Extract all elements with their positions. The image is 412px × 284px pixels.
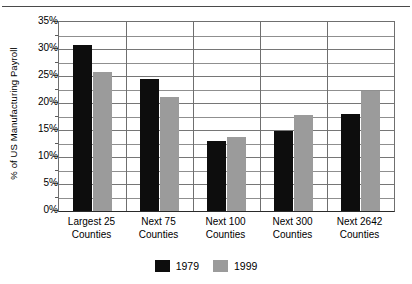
chart-legend: 19791999 — [0, 260, 412, 272]
x-label-line: Next 2642 — [326, 216, 393, 229]
bar-1999-3 — [227, 137, 246, 211]
legend-swatch-icon — [213, 260, 228, 272]
bar-group — [193, 22, 260, 211]
y-tick-label: 15% — [6, 124, 58, 134]
y-tick-label: 5% — [6, 178, 58, 188]
bar-group — [327, 22, 394, 211]
bar-group — [59, 22, 126, 211]
bar-1999-2 — [160, 97, 179, 211]
x-label-line: Next 100 — [192, 216, 259, 229]
x-label-line: Counties — [192, 229, 259, 242]
legend-swatch-icon — [155, 260, 170, 272]
chart-figure: % of US Manufacturing Payroll 0%5%10%15%… — [0, 0, 412, 284]
y-tick-label: 0% — [6, 205, 58, 215]
legend-label: 1999 — [234, 261, 257, 272]
x-label-line: Next 300 — [259, 216, 326, 229]
bar-1999-1 — [93, 72, 112, 211]
legend-entry-1999[interactable]: 1999 — [213, 260, 257, 272]
bar-group — [126, 22, 193, 211]
x-axis-label-5: Next 2642Counties — [326, 216, 393, 241]
x-label-line: Counties — [125, 229, 192, 242]
x-axis-category-labels: Largest 25CountiesNext 75CountiesNext 10… — [58, 216, 395, 252]
bar-1979-4 — [274, 131, 293, 211]
y-tick-label: 35% — [6, 16, 58, 26]
x-axis-label-3: Next 100Counties — [192, 216, 259, 241]
x-label-line: Counties — [58, 229, 125, 242]
y-tick-label: 10% — [6, 151, 58, 161]
bar-group — [260, 22, 327, 211]
y-tick-label: 20% — [6, 97, 58, 107]
bar-1979-2 — [140, 79, 159, 211]
x-label-line: Counties — [259, 229, 326, 242]
x-axis-label-2: Next 75Counties — [125, 216, 192, 241]
y-tick-label: 25% — [6, 70, 58, 80]
y-axis-tick-labels: 0%5%10%15%20%25%30%35% — [0, 21, 58, 212]
x-label-line: Counties — [326, 229, 393, 242]
plot-area — [58, 21, 395, 212]
x-label-line: Next 75 — [125, 216, 192, 229]
x-axis-label-4: Next 300Counties — [259, 216, 326, 241]
title-divider-rule — [2, 6, 410, 7]
legend-label: 1979 — [176, 261, 199, 272]
bar-1999-4 — [294, 115, 313, 211]
bar-1979-3 — [207, 141, 226, 211]
bar-1999-5 — [361, 91, 380, 211]
bar-1979-5 — [341, 114, 360, 211]
bar-1979-1 — [73, 45, 92, 211]
legend-entry-1979[interactable]: 1979 — [155, 260, 199, 272]
x-axis-label-1: Largest 25Counties — [58, 216, 125, 241]
y-tick-label: 30% — [6, 43, 58, 53]
x-label-line: Largest 25 — [58, 216, 125, 229]
